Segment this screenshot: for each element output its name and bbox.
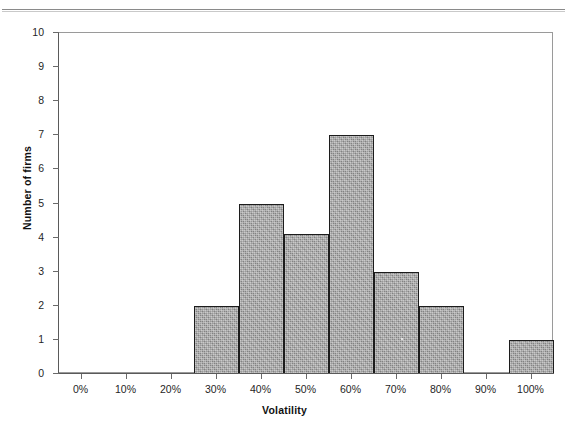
y-tick-label: 7 <box>38 128 44 140</box>
bar-50pct <box>284 234 329 374</box>
bar-80pct <box>419 306 464 374</box>
y-tick-mark <box>53 66 59 67</box>
y-tick-label: 5 <box>38 197 44 209</box>
bar-100pct <box>509 340 554 374</box>
x-axis-title: Volatility <box>0 404 569 416</box>
chart-figure: Number of firms 012345678910 0%10%20%30%… <box>0 12 569 427</box>
x-tick-mark <box>126 374 127 379</box>
x-tick-mark <box>351 374 352 379</box>
y-tick-mark <box>53 237 59 238</box>
y-tick-mark <box>53 339 59 340</box>
x-tick-mark <box>531 374 532 379</box>
page-header-text: VOLATILITY OF FIRM VALUE <box>8 0 146 2</box>
y-tick-label: 0 <box>38 367 44 379</box>
y-tick-label: 2 <box>38 299 44 311</box>
y-tick-mark <box>53 32 59 33</box>
y-axis-labels: 012345678910 <box>0 12 48 427</box>
y-tick-label: 10 <box>32 26 44 38</box>
bar-30pct <box>194 306 239 374</box>
bar-60pct <box>329 135 374 374</box>
x-tick-label: 20% <box>160 383 181 395</box>
page-header-rule <box>2 9 565 10</box>
y-tick-mark <box>53 100 59 101</box>
y-tick-mark <box>53 271 59 272</box>
x-tick-mark <box>81 374 82 379</box>
y-tick-mark <box>53 373 59 374</box>
x-tick-mark <box>306 374 307 379</box>
x-tick-mark <box>261 374 262 379</box>
x-tick-label: 10% <box>115 383 136 395</box>
x-tick-label: 30% <box>205 383 226 395</box>
y-tick-mark <box>53 203 59 204</box>
x-tick-mark <box>441 374 442 379</box>
y-tick-mark <box>53 305 59 306</box>
y-tick-label: 6 <box>38 162 44 174</box>
y-tick-mark <box>53 134 59 135</box>
x-tick-mark <box>216 374 217 379</box>
bar-70pct <box>374 272 419 374</box>
x-tick-mark <box>171 374 172 379</box>
y-tick-label: 4 <box>38 231 44 243</box>
x-tick-mark <box>486 374 487 379</box>
y-tick-mark <box>53 168 59 169</box>
x-tick-label: 60% <box>340 383 361 395</box>
y-tick-label: 3 <box>38 265 44 277</box>
y-tick-label: 9 <box>38 60 44 72</box>
y-tick-label: 1 <box>38 333 44 345</box>
x-tick-label: 90% <box>475 383 496 395</box>
plot-area <box>58 32 553 373</box>
x-tick-label: 40% <box>250 383 271 395</box>
x-tick-label: 0% <box>73 383 88 395</box>
x-tick-label: 50% <box>295 383 316 395</box>
x-tick-label: 70% <box>385 383 406 395</box>
x-tick-mark <box>396 374 397 379</box>
x-tick-label: 100% <box>517 383 544 395</box>
x-tick-label: 80% <box>430 383 451 395</box>
bar-40pct <box>239 204 284 375</box>
y-tick-label: 8 <box>38 94 44 106</box>
plot-inner <box>59 33 552 372</box>
